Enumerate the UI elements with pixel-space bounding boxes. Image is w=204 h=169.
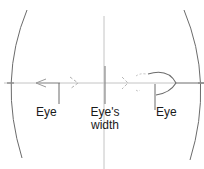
left-eye-sketch xyxy=(36,79,60,87)
head-outline-left xyxy=(11,10,27,158)
sketch-lines xyxy=(0,0,204,169)
left-eye-label: Eye xyxy=(36,106,57,119)
eye-width-label: Eye's width xyxy=(90,106,120,132)
eye-width-label-line2: width xyxy=(90,119,120,132)
head-outline-right xyxy=(184,10,201,160)
right-eye-shape xyxy=(148,72,176,95)
eye-spacing-diagram: Eye Eye's width Eye xyxy=(0,0,204,169)
right-eye-label: Eye xyxy=(156,106,177,119)
